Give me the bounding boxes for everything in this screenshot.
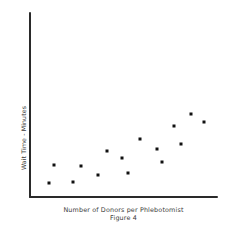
- figure-caption: Figure 4: [29, 214, 218, 222]
- data-point: [138, 138, 141, 141]
- data-point: [155, 147, 158, 150]
- x-axis-title: Number of Donors per Phlebotomist: [29, 206, 218, 214]
- data-point: [47, 182, 50, 185]
- y-axis-title: Wait Time - Minutes: [20, 83, 27, 193]
- data-point: [161, 160, 164, 163]
- scatter-plot-figure: Wait Time - Minutes Number of Donors per…: [0, 0, 235, 237]
- data-point: [106, 149, 109, 152]
- data-point: [96, 173, 99, 176]
- data-point: [172, 125, 175, 128]
- data-point: [72, 181, 75, 184]
- data-point: [79, 165, 82, 168]
- data-point: [127, 171, 130, 174]
- data-point: [120, 157, 123, 160]
- data-point: [180, 143, 183, 146]
- data-point: [202, 120, 205, 123]
- data-points-layer: [29, 12, 218, 198]
- data-point: [52, 164, 55, 167]
- plot-area: [29, 12, 218, 198]
- data-point: [189, 113, 192, 116]
